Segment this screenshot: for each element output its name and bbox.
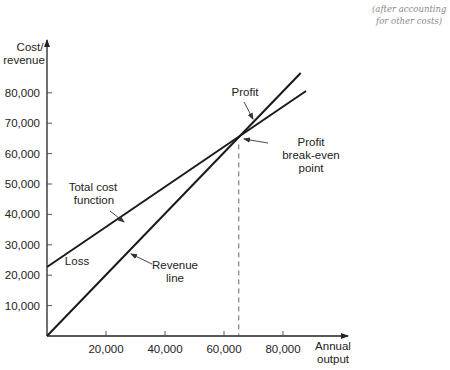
y-tick-label: 70,000 xyxy=(5,117,40,129)
x-tick-label: 80,000 xyxy=(265,343,300,355)
y-tick-label: 10,000 xyxy=(5,300,40,312)
revenue-label-line-1: Revenue xyxy=(152,259,198,271)
x-axis-label-line-1: Annual xyxy=(315,340,351,352)
y-axis-label-line-2: revenue xyxy=(3,54,45,66)
y-tick-label: 80,000 xyxy=(5,87,40,99)
profit-arrow xyxy=(244,102,253,119)
y-tick-label: 40,000 xyxy=(5,208,40,220)
total-cost-function xyxy=(47,91,306,267)
break-even-label-line-2: break-even xyxy=(282,149,340,161)
handwritten-note-line-1: (after accounting xyxy=(372,4,447,14)
y-tick-label: 50,000 xyxy=(5,178,40,190)
y-axis-label-line-1: Cost/ xyxy=(17,41,45,53)
y-tick-label: 60,000 xyxy=(5,148,40,160)
y-tick-label: 30,000 xyxy=(5,239,40,251)
break-even-label-line-1: Profit xyxy=(298,136,326,148)
profit-label: Profit xyxy=(232,86,260,98)
revenue-arrow xyxy=(131,254,152,264)
break-even-label-line-3: point xyxy=(299,162,325,174)
loss-label: Loss xyxy=(65,255,90,267)
x-axis-label-line-2: output xyxy=(317,353,350,365)
total-cost-label-line-1: Total cost xyxy=(69,181,118,193)
break-even-chart: (after accounting for other costs) Cost/… xyxy=(0,0,450,370)
revenue-label-line-2: line xyxy=(166,272,184,284)
total-cost-label-line-2: function xyxy=(74,194,114,206)
x-tick-label: 60,000 xyxy=(206,343,241,355)
x-tick-label: 40,000 xyxy=(147,343,182,355)
x-tick-label: 20,000 xyxy=(88,343,123,355)
y-tick-label: 20,000 xyxy=(5,269,40,281)
break-even-arrow xyxy=(244,139,268,143)
handwritten-note-line-2: for other costs) xyxy=(375,16,442,26)
